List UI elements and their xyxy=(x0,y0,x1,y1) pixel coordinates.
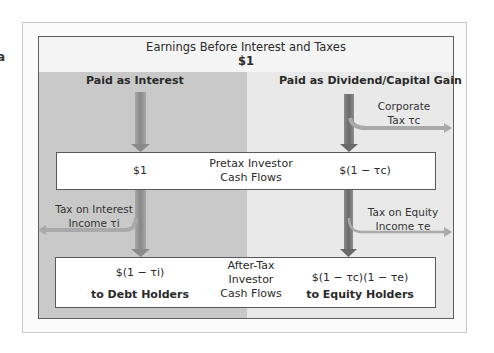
aftertax-debt-recipient: to Debt Holders xyxy=(90,288,190,302)
pretax-debt-value: $1 xyxy=(110,164,170,178)
aftertax-label-line3: Cash Flows xyxy=(211,287,291,301)
aftertax-equity-value: $(1 − τc)(1 − τe) xyxy=(300,271,420,285)
pretax-label-line1: Pretax Investor xyxy=(206,157,296,171)
interest-tax-line2: Income τi xyxy=(54,216,134,230)
arrow-dividend-to-pretax xyxy=(340,94,358,152)
interest-tax-line1: Tax on Interest xyxy=(54,202,134,216)
aftertax-label-line1: After-Tax xyxy=(211,259,291,273)
aftertax-label-line2: Investor xyxy=(211,273,291,287)
pretax-equity-value: $(1 − τc) xyxy=(330,164,400,178)
corporate-tax-line2: Tax τc xyxy=(374,113,434,127)
arrow-interest-to-pretax xyxy=(131,92,150,152)
aftertax-debt-value: $(1 − τi) xyxy=(100,266,180,280)
equity-tax-line1: Tax on Equity xyxy=(365,205,441,219)
equity-tax-line2: Income τe xyxy=(365,219,441,233)
aftertax-equity-recipient: to Equity Holders xyxy=(300,288,420,302)
pretax-label-line2: Cash Flows xyxy=(206,171,296,185)
corporate-tax-line1: Corporate xyxy=(374,99,434,113)
